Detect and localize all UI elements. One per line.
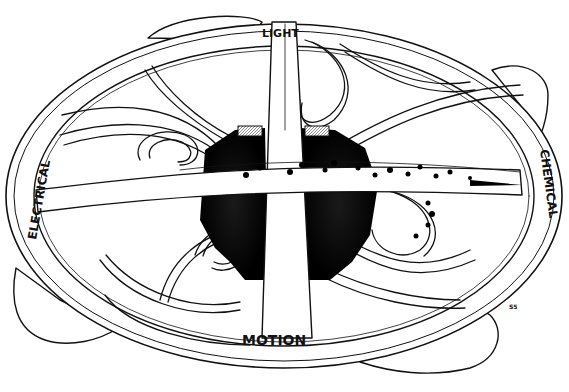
energy-ring-illustration: LIGHT MOTION ELECTRICAL CHEMICAL S5 — [0, 0, 569, 392]
illustration-canvas: LIGHT MOTION ELECTRICAL CHEMICAL S5 — [0, 0, 569, 392]
artist-signature: S5 — [509, 303, 518, 310]
label-light: LIGHT — [262, 27, 299, 40]
label-motion: MOTION — [242, 332, 306, 348]
